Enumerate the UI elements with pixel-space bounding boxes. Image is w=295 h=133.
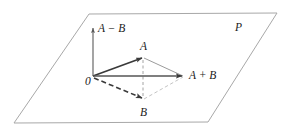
vector-diagram-figure: A − B A A + B B P 0 [0, 0, 295, 133]
vector-origin-to-b-dashed [94, 78, 142, 98]
label-origin: 0 [85, 76, 91, 88]
vector-origin-to-a [93, 58, 142, 76]
edge-a-to-a-plus-b [144, 58, 183, 76]
label-a: A [140, 41, 147, 53]
label-a-plus-b: A + B [189, 70, 216, 82]
label-b: B [140, 107, 147, 119]
figure-canvas [0, 0, 295, 133]
edge-b-to-a-plus-b-dashed [144, 77, 183, 99]
label-a-minus-b: A − B [98, 23, 125, 35]
label-plane-p: P [235, 22, 242, 34]
